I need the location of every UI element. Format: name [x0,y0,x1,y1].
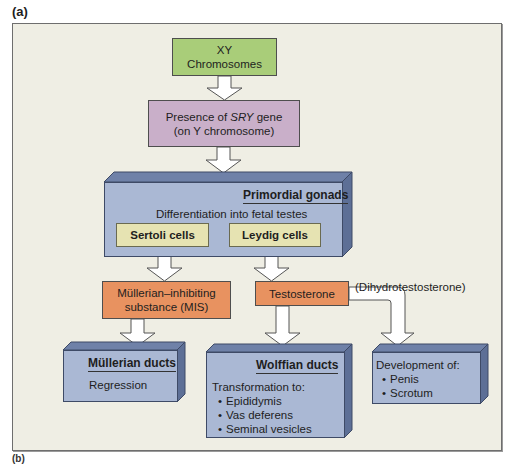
dihydrotestosterone-label: (Dihydrotestosterone) [355,281,466,293]
development-box: Development of: Penis Scrotum [372,344,488,404]
sry-line1: Presence of SRY gene [166,110,283,124]
wolffian-item: Epididymis [212,394,312,408]
mullerian-ducts-box: Müllerian ducts Regression [63,342,185,402]
panel-label-b: (b) [12,453,25,464]
mullerian-ducts-text: Regression [89,378,147,392]
arrow-sry-to-gonads [206,147,241,173]
arrow-testosterone-to-development [349,287,414,346]
development-text: Development of: Penis Scrotum [376,358,460,400]
sry-line2: (on Y chromosome) [174,124,275,138]
arrow-xy-to-sry [207,76,242,100]
leydig-cells-box: Leydig cells [229,223,321,247]
wolffian-list: Epididymis Vas deferens Seminal vesicles [212,394,312,436]
primordial-gonads-subtitle: Differentiation into fetal testes [156,207,307,221]
xy-line2: Chromosomes [187,57,262,71]
mullerian-ducts-title: Müllerian ducts [88,356,176,372]
testosterone-box: Testosterone [255,281,349,306]
wolffian-item: Vas deferens [212,408,312,422]
primordial-gonads-title: Primordial gonads [243,188,348,204]
sry-gene-name: SRY [230,111,253,123]
wolffian-ducts-box: Wolffian ducts Transformation to: Epidid… [206,344,352,438]
development-item: Penis [376,372,460,386]
wolffian-ducts-title: Wolffian ducts [256,358,338,374]
mis-line1: Müllerian–inhibiting [117,286,215,300]
sry-prefix: Presence of [166,111,231,123]
arrow-testosterone-to-wolffian [265,306,300,346]
wolffian-intro: Transformation to: [212,380,312,394]
xy-chromosomes-box: XY Chromosomes [172,38,277,76]
sry-gene-box: Presence of SRY gene (on Y chromosome) [148,100,300,147]
sry-suffix: gene [254,111,283,123]
wolffian-ducts-text: Transformation to: Epididymis Vas defere… [212,380,312,436]
wolffian-item: Seminal vesicles [212,422,312,436]
development-list: Penis Scrotum [376,372,460,400]
development-intro: Development of: [376,358,460,372]
mis-line2: substance (MIS) [125,300,209,314]
xy-line1: XY [217,43,232,57]
mis-box: Müllerian–inhibiting substance (MIS) [102,281,231,319]
sertoli-cells-box: Sertoli cells [116,223,209,247]
development-item: Scrotum [376,386,460,400]
